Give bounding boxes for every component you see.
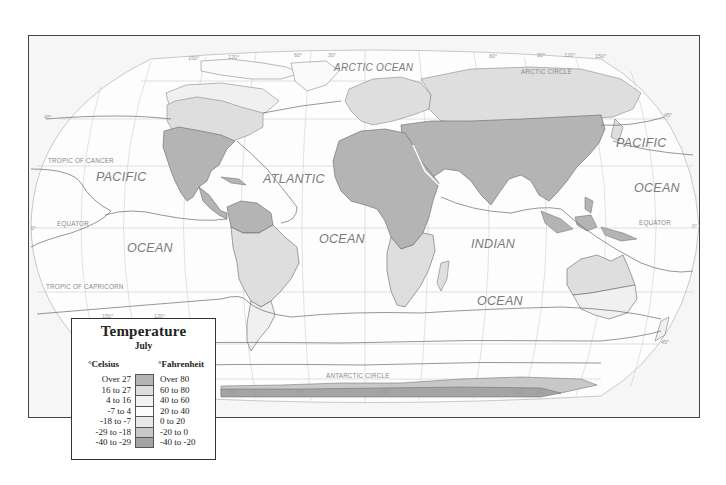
fahrenheit-range: 40 to 60: [160, 395, 190, 406]
color-swatch: [135, 385, 154, 396]
degree-label: 120°: [228, 54, 239, 60]
arctic-ocean-label: ARCTIC OCEAN: [333, 62, 414, 73]
ocean-label-atlantic: OCEAN: [319, 232, 366, 246]
legend-rows: Over 27 Over 80 16 to 27 60 to 80 4 to 1…: [72, 374, 215, 448]
equator-label-east: EQUATOR: [639, 219, 671, 227]
celsius-range: -40 to -29: [96, 437, 132, 448]
celsius-range: -7 to 4: [108, 406, 132, 417]
legend-row: 16 to 27 60 to 80: [72, 385, 215, 396]
legend-row: -7 to 4 20 to 40: [72, 406, 215, 417]
degree-label: 60°: [489, 53, 497, 59]
indian-label: INDIAN: [471, 237, 516, 251]
legend-row: Over 27 Over 80: [72, 374, 215, 385]
celsius-header: °Celsius: [88, 359, 119, 369]
celsius-range: 4 to 16: [106, 395, 131, 406]
tropic-of-capricorn-label: TROPIC OF CAPRICORN: [46, 283, 124, 290]
fahrenheit-range: 20 to 40: [160, 406, 190, 417]
legend-row: -18 to -7 0 to 20: [72, 416, 215, 427]
degree-label: 45°: [664, 112, 672, 118]
color-swatch: [135, 416, 154, 427]
legend-row: -40 to -29 -40 to -20: [72, 437, 215, 448]
degree-label: 0°: [31, 225, 36, 231]
degree-label: 120°: [564, 52, 575, 58]
legend-subtitle: July: [72, 341, 215, 351]
degree-label: 0°: [692, 223, 697, 229]
ocean-label-pacific-west: OCEAN: [127, 241, 174, 255]
fahrenheit-range: -20 to 0: [160, 427, 188, 438]
degree-label: 150°: [535, 389, 546, 395]
pacific-label-east: PACIFIC: [616, 136, 667, 150]
legend-title: Temperature: [72, 323, 215, 340]
ocean-label-indian: OCEAN: [477, 294, 524, 308]
legend-row: 4 to 16 40 to 60: [72, 395, 215, 406]
celsius-range: -29 to -18: [96, 427, 132, 438]
degree-label: 60°: [294, 52, 302, 58]
fahrenheit-range: 0 to 20: [160, 416, 185, 427]
legend-row: -29 to -18 -20 to 0: [72, 427, 215, 438]
celsius-range: Over 27: [102, 374, 131, 385]
fahrenheit-range: 60 to 80: [160, 385, 190, 396]
color-swatch: [135, 406, 154, 417]
degree-label: 150°: [227, 389, 238, 395]
degree-label: 45°: [661, 339, 669, 345]
celsius-range: -18 to -7: [100, 416, 131, 427]
color-swatch: [135, 437, 154, 448]
temperature-legend: Temperature July °Celsius °Fahrenheit Ov…: [71, 318, 216, 460]
antarctic-circle-label: ANTARCTIC CIRCLE: [326, 372, 390, 379]
color-swatch: [135, 427, 154, 438]
degree-label: 90°: [537, 52, 545, 58]
color-swatch: [135, 395, 154, 406]
degree-label: 150°: [188, 55, 199, 61]
tropic-of-cancer-label: TROPIC OF CANCER: [48, 157, 114, 164]
fahrenheit-range: Over 80: [160, 374, 189, 385]
color-swatch: [135, 374, 154, 385]
atlantic-label: ATLANTIC: [262, 172, 326, 186]
degree-label: 45°: [44, 114, 52, 120]
fahrenheit-header: °Fahrenheit: [158, 359, 204, 369]
fahrenheit-range: -40 to -20: [160, 437, 196, 448]
equator-label-west: EQUATOR: [57, 220, 89, 228]
degree-label: 150°: [595, 53, 606, 59]
degree-label: 120°: [513, 389, 524, 395]
arctic-circle-label: ARCTIC CIRCLE: [521, 68, 572, 75]
ocean-label-pacific-east: OCEAN: [634, 181, 681, 195]
pacific-label-west: PACIFIC: [96, 170, 147, 184]
degree-label: 30°: [381, 389, 389, 395]
degree-label: 30°: [328, 52, 336, 58]
degree-label: 60°: [296, 389, 304, 395]
celsius-range: 16 to 27: [101, 385, 131, 396]
